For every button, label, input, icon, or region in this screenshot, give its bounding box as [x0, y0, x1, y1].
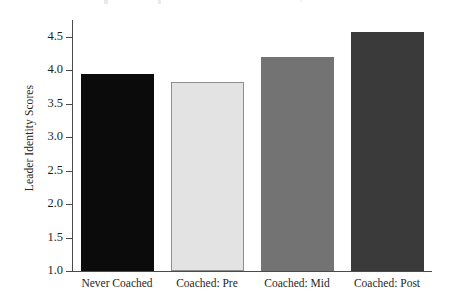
- y-tick-mark: [66, 171, 72, 172]
- y-tick-mark: [66, 104, 72, 105]
- x-tick-label: Never Coached: [72, 277, 162, 289]
- y-tick-label: 2.5: [47, 163, 63, 178]
- y-tick-label: 4.5: [47, 29, 63, 44]
- x-tick-label: Coached: Mid: [252, 277, 342, 289]
- bar-coached-mid: [261, 57, 334, 271]
- scan-artifact: [104, 0, 108, 4]
- y-tick-label: 4.0: [47, 62, 63, 77]
- y-tick-mark: [66, 137, 72, 138]
- y-tick-label: 3.0: [47, 129, 63, 144]
- y-axis-line: [72, 20, 73, 272]
- bar-chart-figure: Leader Identity Scores 1.01.52.02.53.03.…: [0, 0, 450, 303]
- y-tick-mark: [66, 271, 72, 272]
- y-tick-label: 3.5: [47, 96, 63, 111]
- bar-coached-pre: [171, 82, 244, 271]
- y-tick-mark: [66, 70, 72, 71]
- scan-artifact: [300, 0, 302, 2]
- x-tick-label: Coached: Pre: [162, 277, 252, 289]
- y-tick-mark: [66, 204, 72, 205]
- y-tick-mark: [66, 37, 72, 38]
- scan-artifact: [158, 0, 161, 4]
- x-axis-line: [72, 271, 432, 272]
- bar-coached-post: [351, 32, 424, 271]
- plot-area: 1.01.52.02.53.03.54.04.5 Never CoachedCo…: [72, 20, 432, 272]
- y-axis-title: Leader Identity Scores: [23, 43, 35, 233]
- x-tick-label: Coached: Post: [342, 277, 432, 289]
- y-tick-mark: [66, 238, 72, 239]
- y-tick-label: 1.5: [47, 230, 63, 245]
- y-tick-label: 2.0: [47, 196, 63, 211]
- y-tick-label: 1.0: [47, 263, 63, 278]
- bar-never-coached: [81, 74, 154, 271]
